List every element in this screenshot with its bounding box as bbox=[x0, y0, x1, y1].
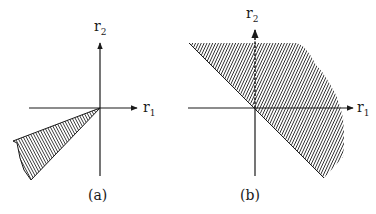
shaded-half-plane-region bbox=[189, 43, 344, 178]
diagram-canvas: r2 r1 (a) r2 r1 (b) bbox=[0, 0, 376, 214]
panel-caption: (b) bbox=[240, 187, 260, 203]
y-axis-label: r2 bbox=[246, 5, 258, 24]
x-axis-label: r1 bbox=[143, 99, 155, 118]
panel-b: r2 r1 (b) bbox=[188, 5, 369, 203]
panel-a: r2 r1 (a) bbox=[13, 18, 155, 203]
x-axis-label: r1 bbox=[357, 99, 369, 118]
y-axis-label: r2 bbox=[94, 18, 106, 37]
shaded-cone-region bbox=[13, 108, 100, 180]
panel-caption: (a) bbox=[88, 187, 107, 203]
